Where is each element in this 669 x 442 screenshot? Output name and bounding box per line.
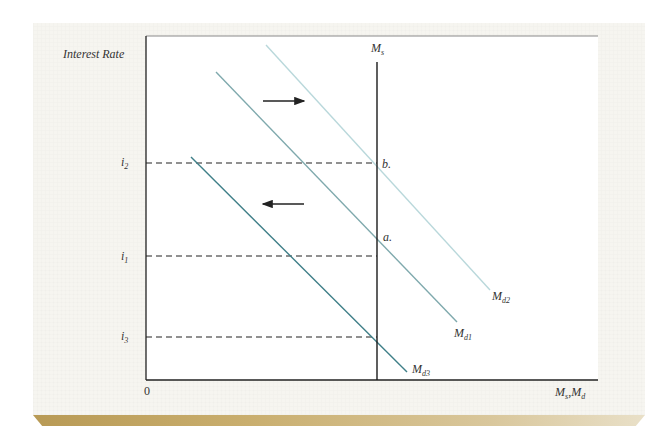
- x-axis-title: Ms,Md: [555, 386, 585, 401]
- md2-label-main: M: [492, 289, 502, 303]
- x-axis-sub-2: d: [581, 392, 585, 401]
- i1-label-sub: 1: [124, 256, 128, 265]
- ms-label: Ms: [371, 42, 384, 57]
- x-axis-main-1: M: [555, 385, 565, 399]
- point-a-label: a.: [383, 231, 392, 243]
- md2-label-sub: d2: [502, 296, 510, 305]
- md1-label-main: M: [454, 326, 464, 340]
- md3-label-main: M: [412, 362, 422, 376]
- money-market-diagram: [0, 0, 669, 442]
- md3-label: Md3: [412, 363, 430, 378]
- x-axis-main-2: M: [571, 385, 581, 399]
- i3-label-sub: 3: [124, 336, 128, 345]
- md2-label: Md2: [492, 290, 510, 305]
- point-b-label: b.: [382, 158, 391, 170]
- ms-label-main: M: [371, 41, 381, 55]
- i2-label-sub: 2: [124, 162, 128, 171]
- i3-label: i3: [121, 330, 128, 345]
- md1-label: Md1: [454, 327, 472, 342]
- i1-label: i1: [121, 250, 128, 265]
- i2-label: i2: [121, 156, 128, 171]
- md1-label-sub: d1: [464, 333, 472, 342]
- plot-area: [146, 36, 598, 380]
- ms-label-sub: s: [381, 48, 384, 57]
- md3-label-sub: d3: [422, 369, 430, 378]
- y-axis-title: Interest Rate: [63, 48, 124, 60]
- origin-label: 0: [144, 385, 150, 397]
